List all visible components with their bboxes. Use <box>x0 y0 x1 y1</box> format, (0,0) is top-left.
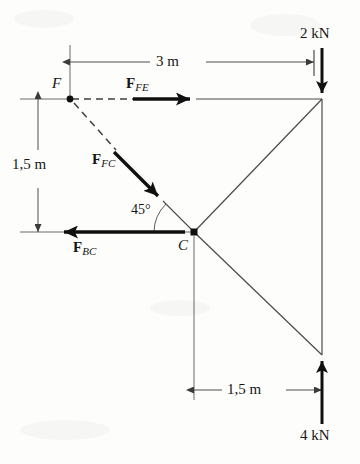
member-C-E <box>194 99 322 232</box>
truss-drawing <box>0 0 360 464</box>
force-label-F-FE: FFE <box>126 76 149 93</box>
dimension-label-top-span: 3 m <box>156 54 179 69</box>
load-label-2kN: 2 kN <box>300 26 330 41</box>
force-symbol: F <box>126 75 135 91</box>
joint-dot-C <box>191 229 198 236</box>
member-F-C-dashed <box>74 103 116 150</box>
dimension-lines <box>38 50 322 390</box>
force-label-F-BC: FBC <box>73 240 97 257</box>
force-symbol: F <box>92 151 101 167</box>
force-label-F-FC: FFC <box>92 152 116 169</box>
node-label-F: F <box>52 76 61 91</box>
force-subscript: BC <box>82 245 96 257</box>
load-label-4kN: 4 kN <box>300 428 330 443</box>
angle-arc-45 <box>154 204 166 232</box>
dimension-label-left-height: 1,5 m <box>12 157 46 172</box>
joint-dot-F <box>67 96 74 103</box>
angle-label-45: 45° <box>131 203 151 217</box>
force-symbol: F <box>73 239 82 255</box>
member-C-D <box>194 232 322 355</box>
force-subscript: FC <box>101 157 115 169</box>
truss-members <box>72 99 322 355</box>
dimension-label-bottom-span: 1,5 m <box>227 382 261 397</box>
member-F-C-tail <box>163 201 194 232</box>
free-body-diagram: F C 3 m 1,5 m 1,5 m 2 kN 4 kN 45° FFE FF… <box>0 0 360 464</box>
force-subscript: FE <box>135 81 149 93</box>
node-label-C: C <box>178 238 188 253</box>
force-vectors <box>64 99 190 232</box>
force-arrow-F-FC <box>114 152 158 196</box>
